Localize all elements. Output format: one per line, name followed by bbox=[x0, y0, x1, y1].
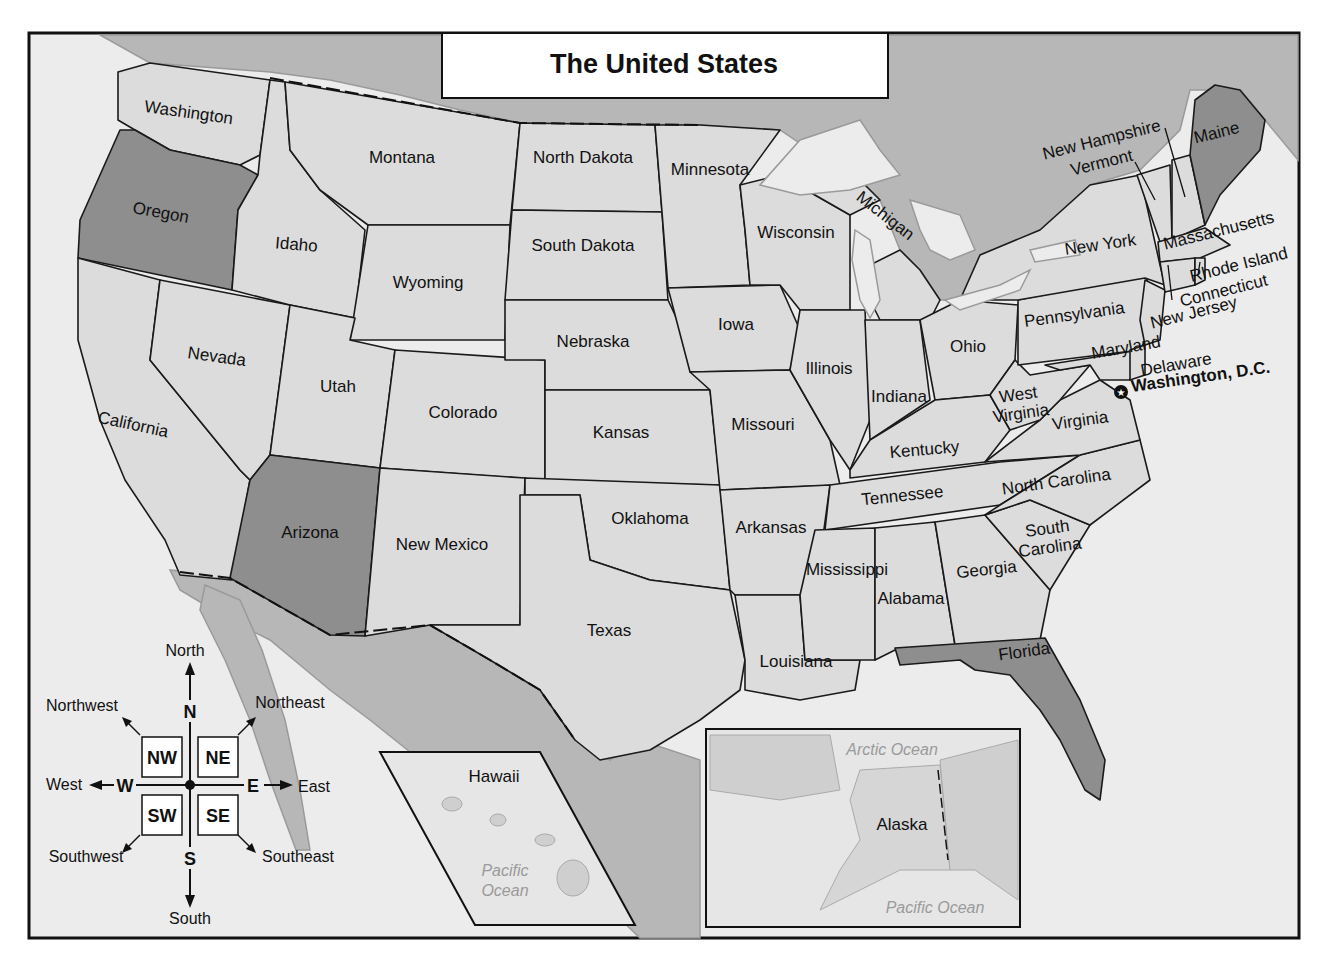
compass-southwest-label: Southwest bbox=[49, 848, 124, 865]
state-label: South Dakota bbox=[531, 236, 635, 255]
compass-s: S bbox=[184, 849, 196, 869]
compass-west-label: West bbox=[46, 776, 83, 793]
hawaii-label: Hawaii bbox=[468, 767, 519, 786]
state-label: Alabama bbox=[877, 589, 945, 608]
state-label: Illinois bbox=[805, 359, 852, 378]
state-label: Montana bbox=[369, 148, 436, 167]
compass-east-label: East bbox=[298, 778, 331, 795]
compass-northwest-label: Northwest bbox=[46, 697, 119, 714]
compass-ne: NE bbox=[205, 748, 230, 768]
compass-sw: SW bbox=[148, 806, 177, 826]
compass-north-label: North bbox=[165, 642, 204, 659]
arctic-ocean-label: Arctic Ocean bbox=[845, 741, 938, 758]
state-label: Idaho bbox=[274, 233, 318, 256]
state-label: Oklahoma bbox=[611, 509, 689, 528]
map-title: The United States bbox=[550, 49, 778, 79]
compass-northeast-label: Northeast bbox=[255, 694, 325, 711]
state-label: Colorado bbox=[429, 403, 498, 422]
state-label: Minnesota bbox=[671, 160, 750, 179]
compass-southeast-label: Southeast bbox=[262, 848, 335, 865]
state-label: Mississippi bbox=[806, 560, 888, 579]
state-label: Iowa bbox=[718, 315, 754, 334]
state-label: New Mexico bbox=[396, 535, 489, 554]
us-map: The United States WashingtonOregonCalifo… bbox=[0, 0, 1317, 968]
compass-w: W bbox=[117, 776, 134, 796]
compass-n: N bbox=[184, 702, 197, 722]
alaska-inset: Arctic Ocean Alaska Pacific Ocean bbox=[706, 729, 1020, 927]
hawaii-ocean-line1: Pacific bbox=[481, 862, 528, 879]
compass-se: SE bbox=[206, 806, 230, 826]
state-mississippi[interactable] bbox=[800, 528, 875, 660]
state-label: Arkansas bbox=[736, 518, 807, 537]
state-label: Indiana bbox=[871, 387, 927, 406]
state-label: Kansas bbox=[593, 423, 650, 442]
state-label: Louisiana bbox=[760, 652, 833, 671]
hawaii-ocean-line2: Ocean bbox=[481, 882, 528, 899]
compass-south-label: South bbox=[169, 910, 211, 927]
state-label: Ohio bbox=[950, 337, 986, 356]
alaska-label: Alaska bbox=[876, 815, 928, 834]
pacific-ocean-label: Pacific Ocean bbox=[886, 899, 985, 916]
star-icon: ★ bbox=[1117, 387, 1126, 398]
state-north-dakota[interactable] bbox=[512, 123, 662, 212]
state-label: Missouri bbox=[731, 415, 794, 434]
state-south-dakota[interactable] bbox=[505, 210, 668, 300]
state-label: Arizona bbox=[281, 523, 339, 542]
compass-e: E bbox=[247, 776, 259, 796]
state-label: North Dakota bbox=[533, 148, 634, 167]
compass-nw: NW bbox=[147, 748, 177, 768]
state-label: Wisconsin bbox=[757, 223, 834, 242]
state-label: Wyoming bbox=[393, 273, 464, 292]
state-label: Texas bbox=[587, 621, 631, 640]
state-label: Nebraska bbox=[557, 332, 630, 351]
state-label: Utah bbox=[320, 377, 356, 396]
